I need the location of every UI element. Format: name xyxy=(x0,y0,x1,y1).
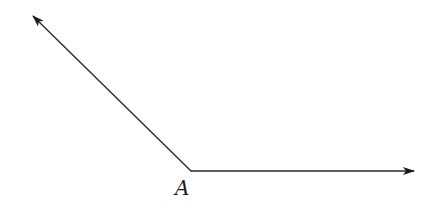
vertex-label: A xyxy=(173,176,189,200)
vertex-point xyxy=(190,170,191,171)
angle-diagram: A xyxy=(0,0,434,211)
ray-up-left xyxy=(33,16,191,171)
